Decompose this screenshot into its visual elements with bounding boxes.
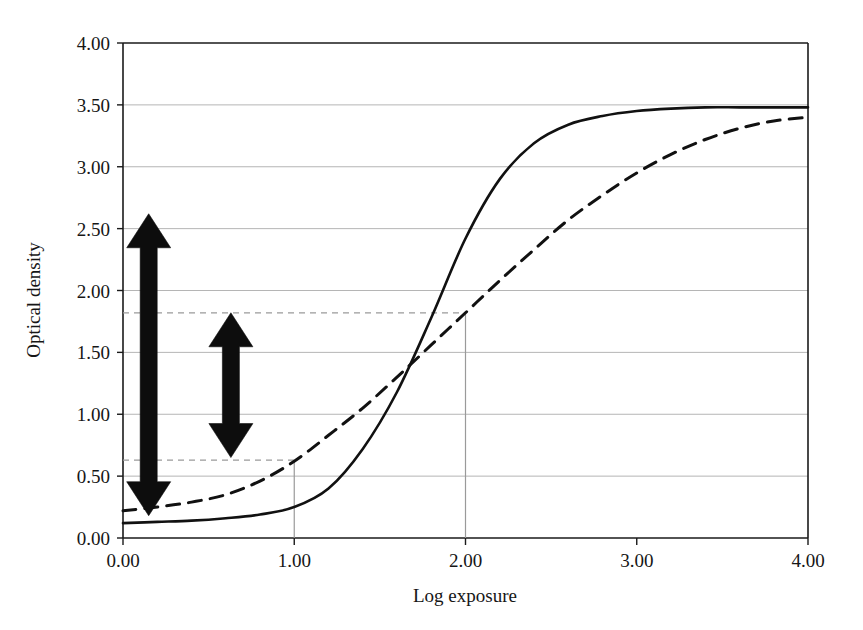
x-tick-label-3.00: 3.00 [620, 550, 653, 571]
y-tick-label-1.00: 1.00 [77, 404, 110, 425]
y-tick-label-3.50: 3.50 [77, 95, 110, 116]
y-tick-label-2.50: 2.50 [77, 219, 110, 240]
y-axis-title: Optical density [23, 242, 44, 358]
characteristic-curve-figure: 0.000.501.001.502.002.503.003.504.00 0.0… [0, 0, 863, 630]
x-tick-label-0.00: 0.00 [106, 550, 139, 571]
chart-canvas: 0.000.501.001.502.002.503.003.504.00 0.0… [0, 0, 863, 630]
y-tick-label-3.00: 3.00 [77, 157, 110, 178]
y-tick-label-2.00: 2.00 [77, 281, 110, 302]
y-tick-label-4.00: 4.00 [77, 33, 110, 54]
y-tick-label-1.50: 1.50 [77, 342, 110, 363]
y-tick-label-0.00: 0.00 [77, 528, 110, 549]
x-tick-label-1.00: 1.00 [278, 550, 311, 571]
x-tick-label-4.00: 4.00 [791, 550, 824, 571]
y-tick-label-0.50: 0.50 [77, 466, 110, 487]
x-axis-title: Log exposure [413, 585, 517, 606]
x-tick-label-2.00: 2.00 [449, 550, 482, 571]
